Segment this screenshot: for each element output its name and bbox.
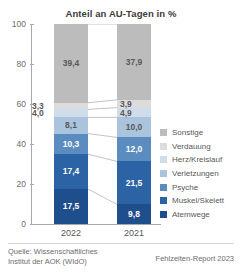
leader-line [88, 100, 117, 103]
bar-value-label: 39,4 [63, 59, 80, 68]
bar-value-label: 9,8 [128, 210, 140, 219]
bar-segment-atemwege[interactable]: 17,5 [54, 189, 88, 224]
bar-value-label-outside: 3,9 [120, 99, 132, 109]
report-note: Fehlzeiten-Report 2023 [156, 254, 234, 263]
legend-label: Verletzungen [172, 169, 219, 178]
legend: SonstigeVerdauungHerz/KreislaufVerletzun… [160, 126, 240, 221]
y-tick-80 [30, 64, 34, 65]
bar-value-label: 37,9 [126, 58, 143, 67]
bar-value-label: 10,3 [63, 140, 80, 149]
bar-segment-verdauung[interactable] [54, 103, 88, 110]
legend-label: Verdauung [172, 142, 211, 151]
legend-item-verletzungen[interactable]: Verletzungen [160, 167, 240, 181]
leader-line [88, 134, 117, 138]
legend-label: Psyche [172, 183, 198, 192]
y-axis-line [31, 24, 32, 224]
legend-swatch-icon [160, 211, 167, 218]
bar-segment-muskel-skelett[interactable]: 21,5 [117, 161, 151, 204]
bar-value-label: 17,4 [63, 167, 80, 176]
legend-item-muskel-skelett[interactable]: Muskel/Skelett [160, 194, 240, 208]
bar-segment-psyche[interactable]: 10,3 [54, 134, 88, 155]
x-tick-label-2022: 2022 [54, 228, 88, 238]
legend-label: Muskel/Skelett [172, 196, 224, 205]
footer-divider [8, 243, 234, 244]
bar-segment-sonstige[interactable]: 37,9 [117, 24, 151, 100]
y-tick-label-80: 80 [17, 59, 26, 69]
y-tick-label-40: 40 [17, 139, 26, 149]
bar-value-label: 21,5 [126, 179, 143, 188]
legend-item-herz-kreislauf[interactable]: Herz/Kreislauf [160, 153, 240, 167]
legend-swatch-icon [160, 129, 167, 136]
bar-value-label: 17,5 [63, 202, 80, 211]
bar-segment-verletzungen[interactable]: 8,1 [54, 117, 88, 133]
leader-line [88, 108, 117, 110]
y-tick-label-100: 100 [12, 19, 26, 29]
bar-value-label-outside: 4,9 [120, 108, 132, 118]
legend-item-atemwege[interactable]: Atemwege [160, 208, 240, 222]
bar-segment-sonstige[interactable]: 39,4 [54, 24, 88, 103]
page-title: Anteil an AU-Tagen in % [0, 8, 242, 19]
legend-item-verdauung[interactable]: Verdauung [160, 140, 240, 154]
y-tick-label-0: 0 [21, 219, 26, 229]
bar-segment-herz-kreislauf[interactable] [54, 109, 88, 117]
legend-item-psyche[interactable]: Psyche [160, 180, 240, 194]
y-tick-label-20: 20 [17, 179, 26, 189]
y-tick-20 [30, 184, 34, 185]
legend-item-sonstige[interactable]: Sonstige [160, 126, 240, 140]
y-tick-40 [30, 144, 34, 145]
legend-swatch-icon [160, 143, 167, 150]
y-tick-0 [30, 224, 34, 225]
y-tick-100 [30, 24, 34, 25]
chart-card: Anteil an AU-Tagen in % 020406080100 17,… [0, 0, 242, 274]
legend-label: Sonstige [172, 128, 203, 137]
plot-area: 020406080100 17,517,410,38,139,4 9,821,5… [31, 24, 141, 224]
y-tick-label-60: 60 [17, 99, 26, 109]
bar-value-label: 12,0 [126, 145, 143, 154]
x-tick-label-2021: 2021 [117, 228, 151, 238]
x-axis-line [31, 224, 161, 225]
leader-line [88, 154, 117, 161]
legend-swatch-icon [160, 184, 167, 191]
legend-label: Atemwege [172, 210, 210, 219]
bar-segment-atemwege[interactable]: 9,8 [117, 204, 151, 224]
leader-line [88, 189, 117, 204]
source-note: Quelle: Wissenschaftliches Institut der … [8, 247, 98, 267]
bar-segment-verletzungen[interactable]: 10,0 [117, 117, 151, 137]
legend-swatch-icon [160, 156, 167, 163]
bar-segment-psyche[interactable]: 12,0 [117, 137, 151, 161]
bar-segment-muskel-skelett[interactable]: 17,4 [54, 154, 88, 189]
legend-swatch-icon [160, 197, 167, 204]
legend-label: Herz/Kreislauf [172, 155, 222, 164]
legend-swatch-icon [160, 170, 167, 177]
bar-value-label: 10,0 [126, 123, 143, 132]
bar-value-label: 8,1 [65, 121, 77, 130]
bar-value-label-outside: 3,3 [32, 101, 44, 111]
